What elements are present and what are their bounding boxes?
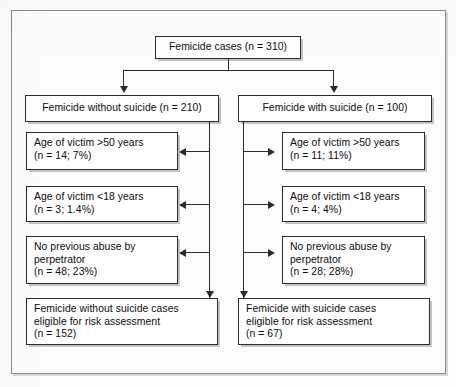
connector-right-arm-noabuse [244, 252, 269, 253]
node-left-exclusion-age-over-50: Age of victim >50 years (n = 14; 7%) [26, 132, 178, 170]
node-femicide-cases-label: Femicide cases (n = 310) [169, 41, 287, 54]
connector-right-spine [243, 122, 244, 305]
node-right-exclusion-age-under-18-line1: Age of victim <18 years [290, 191, 418, 204]
node-femicide-without-suicide-label: Femicide without suicide (n = 210) [42, 102, 202, 115]
node-right-outcome-eligible-line3: (n = 67) [246, 328, 423, 341]
node-femicide-cases: Femicide cases (n = 310) [155, 36, 301, 59]
node-right-exclusion-no-previous-abuse-line1: No previous abuse by [290, 241, 418, 254]
arrow-right-arm-under18-icon [268, 201, 275, 209]
node-femicide-with-suicide-label: Femicide with suicide (n = 100) [262, 102, 407, 115]
node-left-exclusion-age-over-50-line2: (n = 14; 7%) [34, 150, 171, 163]
node-right-outcome-eligible-line2: eligible for risk assessment [246, 316, 423, 329]
flowchart-diagram: Femicide cases (n = 310) Femicide withou… [0, 0, 456, 387]
node-left-exclusion-age-under-18-line2: (n = 3; 1.4%) [34, 204, 171, 217]
arrow-left-arm-noabuse-icon [179, 249, 186, 257]
node-left-exclusion-no-previous-abuse-line2: perpetrator [34, 254, 171, 267]
node-right-exclusion-no-previous-abuse-line2: perpetrator [290, 254, 418, 267]
node-right-exclusion-no-previous-abuse-line3: (n = 28; 28%) [290, 266, 418, 279]
node-right-exclusion-age-under-18-line2: (n = 4; 4%) [290, 204, 418, 217]
node-left-outcome-eligible: Femicide without suicide cases eligible … [26, 298, 218, 345]
connector-left-arm-under18 [186, 204, 210, 205]
connector-root-to-right-branch [333, 70, 334, 87]
node-right-exclusion-age-over-50: Age of victim >50 years (n = 11; 11%) [282, 132, 425, 170]
node-left-exclusion-age-under-18-line1: Age of victim <18 years [34, 191, 171, 204]
node-left-outcome-eligible-line2: eligible for risk assessment [34, 316, 211, 329]
connector-right-arm-under18 [244, 204, 269, 205]
connector-right-arm-over50 [244, 151, 269, 152]
node-right-outcome-eligible: Femicide with suicide cases eligible for… [238, 298, 430, 345]
node-left-exclusion-age-over-50-line1: Age of victim >50 years [34, 137, 171, 150]
connector-root-to-left-branch [123, 70, 124, 87]
node-left-exclusion-no-previous-abuse-line3: (n = 48; 23%) [34, 266, 171, 279]
node-femicide-without-suicide: Femicide without suicide (n = 210) [25, 95, 219, 122]
arrow-left-spine-to-outcome-icon [206, 291, 214, 298]
node-left-outcome-eligible-line1: Femicide without suicide cases [34, 303, 211, 316]
arrow-left-arm-over50-icon [179, 148, 186, 156]
connector-left-arm-over50 [186, 151, 210, 152]
connector-left-spine [209, 122, 210, 305]
node-left-exclusion-no-previous-abuse-line1: No previous abuse by [34, 241, 171, 254]
node-right-exclusion-age-over-50-line1: Age of victim >50 years [290, 137, 418, 150]
arrow-root-to-right-branch-icon [330, 86, 338, 93]
arrow-right-arm-noabuse-icon [268, 249, 275, 257]
node-right-exclusion-age-under-18: Age of victim <18 years (n = 4; 4%) [282, 186, 425, 222]
node-femicide-with-suicide: Femicide with suicide (n = 100) [238, 95, 432, 122]
arrow-root-to-left-branch-icon [120, 86, 128, 93]
node-right-exclusion-age-over-50-line2: (n = 11; 11%) [290, 150, 418, 163]
connector-root-split-bar [123, 70, 334, 71]
node-left-outcome-eligible-line3: (n = 152) [34, 328, 211, 341]
arrow-left-arm-under18-icon [179, 201, 186, 209]
node-left-exclusion-age-under-18: Age of victim <18 years (n = 3; 1.4%) [26, 186, 178, 222]
node-right-exclusion-no-previous-abuse: No previous abuse by perpetrator (n = 28… [282, 236, 425, 284]
node-left-exclusion-no-previous-abuse: No previous abuse by perpetrator (n = 48… [26, 236, 178, 284]
node-right-outcome-eligible-line1: Femicide with suicide cases [246, 303, 423, 316]
connector-left-arm-noabuse [186, 252, 210, 253]
arrow-right-spine-to-outcome-icon [240, 291, 248, 298]
arrow-right-arm-over50-icon [268, 148, 275, 156]
